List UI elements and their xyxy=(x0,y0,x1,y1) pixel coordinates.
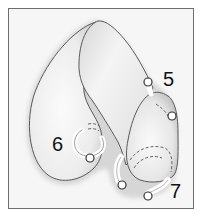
marker-6 xyxy=(86,154,94,162)
label-5: 5 xyxy=(163,69,174,89)
marker-7-right xyxy=(144,192,152,200)
marker-7-left xyxy=(118,181,126,189)
marker-5-upper xyxy=(144,78,152,86)
label-7: 7 xyxy=(170,181,181,201)
marker-5-lower xyxy=(168,112,176,120)
label-6: 6 xyxy=(52,134,63,154)
